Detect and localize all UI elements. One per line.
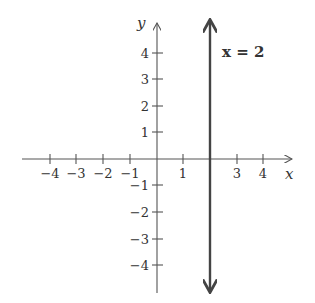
y-axis-label: y	[136, 14, 146, 32]
x-tick-label: 4	[259, 166, 267, 181]
x-tick-label: −4	[40, 166, 59, 181]
y-tick-label: 2	[141, 99, 149, 114]
y-tick-label: −3	[130, 232, 149, 247]
y-tick-label: −2	[130, 205, 149, 220]
equation-label: x = 2	[222, 43, 264, 61]
y-tick-label: 1	[141, 125, 149, 140]
y-tick-label: −4	[130, 258, 149, 273]
y-tick-label: 3	[141, 72, 149, 87]
x-tick-label: 3	[233, 166, 241, 181]
x-tick-labels: −4 −3 −2 −1 1 3 4	[40, 166, 267, 181]
y-tick-label: −1	[130, 178, 149, 193]
x-tick-label: 1	[179, 166, 187, 181]
x-tick-label: −3	[66, 166, 85, 181]
x-tick-label: −2	[93, 166, 112, 181]
coordinate-plane: −4 −3 −2 −1 1 3 4 4 3 2 1 −1 −2 −3 −4 x …	[0, 0, 315, 303]
y-tick-label: 4	[141, 46, 149, 61]
x-axis-label: x	[285, 165, 294, 183]
